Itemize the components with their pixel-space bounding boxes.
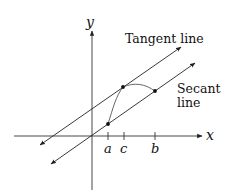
point-b: [153, 89, 157, 93]
function-curve: [108, 84, 155, 124]
mvt-diagram: y x a c b Tangent line Secant line: [0, 0, 230, 193]
y-axis-label: y: [85, 14, 95, 30]
tangent-line-label: Tangent line: [125, 31, 204, 46]
tick-label-a: a: [104, 141, 112, 156]
point-a: [106, 122, 110, 126]
x-axis-label: x: [206, 127, 214, 143]
tick-label-c: c: [120, 141, 128, 156]
tangent-line: [40, 47, 181, 145]
secant-line-label-2: line: [177, 95, 200, 110]
tick-label-b: b: [151, 141, 159, 156]
point-c: [121, 85, 125, 89]
secant-line-label-1: Secant: [177, 81, 221, 96]
